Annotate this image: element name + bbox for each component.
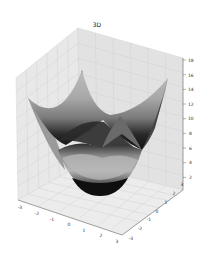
y-tick-3: 3 (181, 182, 184, 187)
z-tick-10: 10 (188, 116, 194, 121)
z-tick-16: 16 (188, 73, 194, 78)
z-axis-ticks: 18 16 14 12 10 8 6 4 2 (183, 58, 194, 180)
z-tick-6: 6 (189, 146, 192, 151)
y-tick-0: 0 (156, 209, 159, 214)
x-tick--1: -1 (50, 217, 55, 222)
y-tick--2: -2 (138, 226, 143, 231)
chart-title: 3D (93, 21, 102, 28)
z-tick-14: 14 (188, 87, 194, 92)
x-tick-0: 0 (68, 222, 71, 227)
z-tick-4: 4 (189, 160, 192, 165)
z-tick-2: 2 (189, 175, 192, 180)
x-tick-1: 1 (83, 228, 86, 233)
z-tick-12: 12 (188, 102, 194, 107)
x-tick-3: 3 (116, 239, 119, 244)
x-tick--2: -2 (35, 211, 40, 216)
x-tick--3: -3 (18, 205, 23, 210)
z-tick-18: 18 (188, 58, 194, 63)
z-tick-8: 8 (189, 131, 192, 136)
x-tick-2: 2 (100, 233, 103, 238)
y-tick--3: -3 (129, 236, 134, 241)
surface-plot-figure: 3D (0, 0, 205, 262)
y-tick-1: 1 (165, 200, 168, 205)
y-tick-2: 2 (173, 191, 176, 196)
y-tick--1: -1 (147, 217, 152, 222)
